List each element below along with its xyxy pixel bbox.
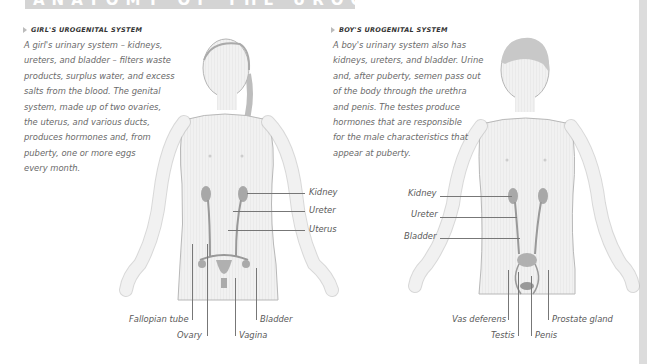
label-boy-penis: Penis bbox=[535, 330, 557, 340]
triangle-bullet-icon bbox=[23, 27, 27, 33]
leader-line-ureter bbox=[233, 211, 305, 212]
label-girl-kidney: Kidney bbox=[309, 187, 338, 197]
label-girl-uterus: Uterus bbox=[309, 224, 337, 234]
label-girl-fallopian-tube: Fallopian tube bbox=[129, 314, 189, 324]
leader-line-fallopian-tube bbox=[192, 244, 193, 320]
boy-description: A boy's urinary system also has kidneys,… bbox=[333, 38, 483, 161]
label-girl-ovary: Ovary bbox=[177, 330, 202, 340]
leader-line-bladder bbox=[256, 268, 257, 320]
leader-line-kidney bbox=[247, 193, 305, 194]
label-girl-ureter: Ureter bbox=[309, 205, 336, 215]
label-boy-testis: Testis bbox=[491, 330, 515, 340]
triangle-bullet-icon bbox=[331, 27, 335, 33]
label-girl-bladder: Bladder bbox=[260, 314, 292, 324]
label-boy-bladder: Bladder bbox=[404, 231, 436, 241]
leader-line-boy-ureter bbox=[440, 217, 517, 218]
label-boy-ureter: Ureter bbox=[411, 209, 438, 219]
leader-line-testis bbox=[518, 272, 519, 336]
label-boy-kidney: Kidney bbox=[408, 188, 437, 198]
leader-line-vagina bbox=[235, 278, 236, 336]
leader-line-vas-deferens bbox=[508, 270, 509, 320]
leader-line-boy-bladder bbox=[440, 238, 520, 239]
leader-line-uterus bbox=[228, 230, 305, 231]
leader-line-penis bbox=[531, 276, 532, 336]
label-boy-vas-deferens: Vas deferens bbox=[452, 314, 506, 324]
label-girl-vagina: Vagina bbox=[239, 330, 267, 340]
boy-section-heading: BOY'S UROGENITAL SYSTEM bbox=[331, 26, 448, 34]
page-title: ANATOMY OF THE UROGENITAL SYSTEM bbox=[33, 0, 355, 9]
girl-section-heading: GIRL'S UROGENITAL SYSTEM bbox=[23, 26, 142, 34]
girl-description: A girl's urinary system – kidneys, urete… bbox=[24, 38, 175, 177]
leader-line-boy-kidney bbox=[440, 196, 512, 197]
leader-line-ovary bbox=[207, 244, 208, 336]
label-boy-prostate-gland: Prostate gland bbox=[552, 314, 613, 324]
page-title-band: ANATOMY OF THE UROGENITAL SYSTEM bbox=[25, 0, 355, 9]
leader-line-prostate-gland bbox=[548, 270, 549, 320]
